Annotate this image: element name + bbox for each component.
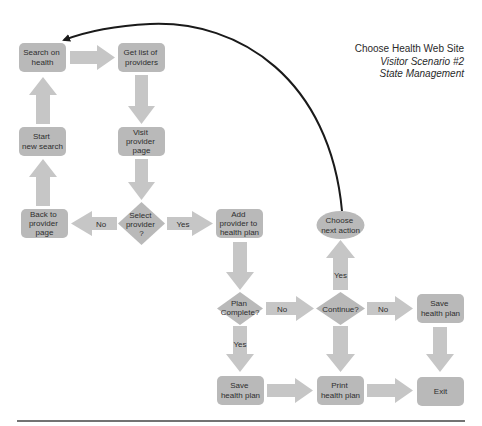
- arrow-continue-no: [367, 296, 413, 321]
- arrow-back-to-start: [29, 159, 57, 206]
- arrow-save-to-exit: [426, 327, 454, 372]
- edge-label-continue-no: No: [378, 305, 389, 314]
- diagram-subtitle-state: State Management: [355, 68, 464, 81]
- diagram-subtitle-scenario: Visitor Scenario #2: [355, 56, 464, 69]
- arrow-save-to-print: [267, 378, 313, 403]
- arrow-plan-no: [266, 296, 314, 321]
- diagram-title-block: Choose Health Web Site Visitor Scenario …: [355, 43, 464, 81]
- edge-label-plan-no: No: [277, 305, 288, 314]
- edge-label-plan-yes: Yes: [233, 340, 246, 349]
- arrow-visit-to-select: [128, 159, 155, 200]
- edge-label-select-no: No: [96, 220, 107, 229]
- arrow-search-to-list: [70, 45, 115, 70]
- arrow-select-no: [71, 211, 117, 236]
- arrow-continue-to-print: [326, 326, 355, 372]
- edge-label-continue-yes: Yes: [334, 271, 347, 280]
- arrow-plan-yes: [226, 326, 254, 372]
- label-get-list-of-providers: Get list of providers: [123, 48, 159, 67]
- diagram-title: Choose Health Web Site: [355, 43, 464, 56]
- arrow-continue-yes: [326, 240, 355, 290]
- label-continue: Continue?: [322, 305, 359, 314]
- arrow-start-to-search: [29, 77, 57, 124]
- edge-label-select-yes: Yes: [176, 220, 189, 229]
- arrow-add-to-plan: [226, 242, 254, 290]
- arrow-print-to-exit: [367, 378, 413, 403]
- arrow-list-to-visit: [128, 75, 155, 124]
- arrow-select-yes: [167, 211, 213, 236]
- label-exit: Exit: [434, 387, 448, 396]
- label-choose-next-action: Choose next action: [321, 216, 360, 235]
